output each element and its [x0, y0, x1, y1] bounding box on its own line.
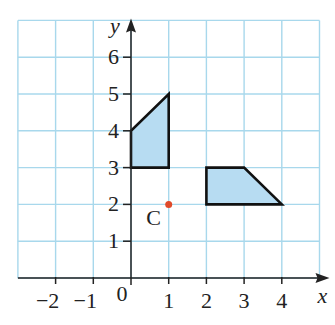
shape-b [206, 168, 281, 205]
y-tick-label: 5 [108, 81, 119, 106]
y-tick-label: 1 [108, 228, 119, 253]
x-axis-arrow-icon [316, 273, 330, 283]
point-c-dot [165, 201, 172, 208]
x-axis-label: x [317, 283, 328, 308]
axes [18, 18, 330, 285]
y-tick-label: 2 [108, 191, 119, 216]
y-tick-label: 3 [108, 155, 119, 180]
y-tick-label: 4 [108, 118, 119, 143]
origin-label: 0 [117, 281, 128, 306]
x-tick-label: 1 [163, 288, 174, 313]
point-c-label: C [146, 205, 161, 230]
shape-a [131, 94, 169, 168]
x-tick-label: −2 [36, 288, 59, 313]
x-tick-label: −1 [74, 288, 97, 313]
y-axis-label: y [108, 13, 120, 38]
coordinate-grid-diagram: −2−112341234560xy C [0, 0, 335, 325]
x-tick-label: 4 [276, 288, 287, 313]
tick-labels: −2−112341234560xy [36, 13, 328, 313]
x-tick-label: 2 [201, 288, 212, 313]
x-tick-label: 3 [239, 288, 250, 313]
y-tick-label: 6 [108, 44, 119, 69]
